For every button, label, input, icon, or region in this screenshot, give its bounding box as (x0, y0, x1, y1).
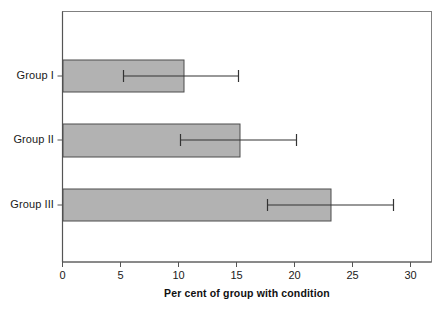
category-label-group-i: Group I (0, 69, 54, 81)
category-label-group-iii: Group III (0, 198, 54, 210)
category-label-group-ii: Group II (0, 133, 54, 145)
x-axis-title: Per cent of group with condition (62, 287, 432, 299)
xtick-label-15: 15 (222, 269, 251, 281)
xtick-label-10: 10 (164, 269, 193, 281)
bar-chart: Group I Group II Group III 0 5 10 15 20 … (0, 0, 445, 312)
x-axis-ticks (63, 262, 411, 267)
chart-canvas (0, 0, 445, 312)
xtick-label-0: 0 (48, 269, 77, 281)
xtick-label-25: 25 (338, 269, 367, 281)
xtick-label-5: 5 (106, 269, 135, 281)
xtick-label-20: 20 (280, 269, 309, 281)
y-axis-ticks (58, 76, 63, 205)
xtick-label-30: 30 (396, 269, 425, 281)
